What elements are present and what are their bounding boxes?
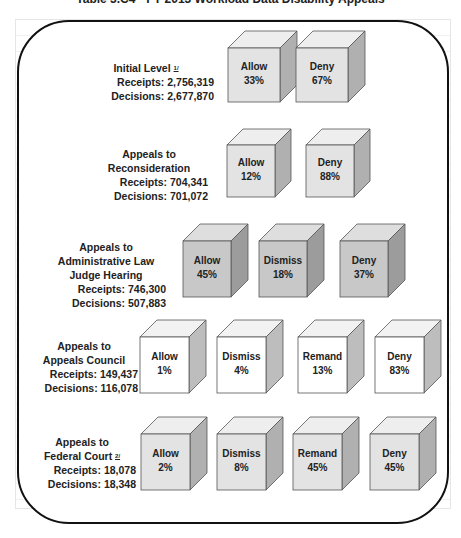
outcome-percent: 8% [217, 461, 266, 475]
receipts-label: Receipts: [117, 76, 164, 88]
outcome-label: Deny [306, 156, 354, 170]
outcome-cube: Dismiss4% [217, 320, 283, 393]
decisions-value: 2,677,870 [167, 90, 214, 102]
receipts-value: 18,078 [104, 464, 136, 476]
receipts-value: 704,341 [170, 176, 208, 188]
level-name-line2: Reconsideration [90, 161, 208, 175]
outcome-percent: 88% [306, 170, 354, 184]
receipts-label: Receipts: [54, 464, 101, 476]
outcome-cube: Dismiss18% [259, 224, 324, 297]
receipts-label: Receipts: [120, 176, 167, 188]
outcome-label: Allow [227, 156, 275, 170]
level-label-federal-court: Appeals to Federal Court 2/ Receipts: 18… [28, 435, 136, 491]
level-name: Appeals to [46, 240, 166, 254]
level-label-initial: Initial Level 1/ Receipts: 2,756,319 Dec… [78, 61, 214, 103]
outcome-label: Allow [141, 447, 190, 461]
outcome-label: Dismiss [259, 254, 307, 268]
outcome-label: Allow [228, 60, 280, 74]
outcome-cube: Deny83% [375, 320, 441, 393]
receipts-value: 746,300 [128, 283, 166, 295]
outcome-percent: 13% [298, 364, 347, 378]
receipts-label: Receipts: [78, 283, 125, 295]
outcome-label: Allow [140, 350, 189, 364]
outcome-percent: 4% [217, 364, 266, 378]
outcome-cube: Remand13% [298, 320, 364, 393]
outcome-percent: 37% [340, 268, 388, 282]
decisions-label: Decisions: [72, 297, 125, 309]
outcome-percent: 18% [259, 268, 307, 282]
outcome-percent: 45% [183, 268, 231, 282]
outcome-label: Deny [340, 254, 388, 268]
decisions-label: Decisions: [45, 382, 98, 394]
decisions-value: 116,078 [101, 382, 138, 394]
outcome-percent: 12% [227, 170, 275, 184]
outcome-percent: 33% [228, 74, 280, 88]
outcome-cube: Deny37% [340, 224, 405, 297]
decisions-value: 701,072 [170, 190, 208, 202]
outcome-label: Deny [370, 447, 419, 461]
receipts-value: 149,437 [100, 368, 138, 380]
outcome-percent: 45% [293, 461, 342, 475]
decisions-label: Decisions: [111, 90, 164, 102]
outcome-percent: 67% [296, 74, 348, 88]
level-name: Initial Level [113, 62, 170, 74]
level-name-line3: Judge Hearing [46, 268, 166, 282]
outcome-percent: 83% [375, 364, 424, 378]
level-label-reconsideration: Appeals to Reconsideration Receipts: 704… [90, 147, 208, 203]
table-title: Table 3.C4 - FY 2013 Workload Data Disab… [0, 0, 461, 6]
footnote-marker: 2/ [115, 453, 120, 459]
level-name: Appeals to [28, 435, 136, 449]
level-label-appeals-council: Appeals to Appeals Council Receipts: 149… [30, 339, 138, 395]
outcome-cube: Allow45% [183, 224, 248, 297]
decisions-label: Decisions: [114, 190, 167, 202]
level-name-line2: Federal Court [44, 450, 112, 462]
outcome-cube: Deny88% [306, 129, 370, 197]
outcome-cube: Dismiss8% [217, 417, 283, 490]
outcome-cube: Remand45% [293, 417, 359, 490]
decisions-value: 507,883 [128, 297, 166, 309]
level-label-alj: Appeals to Administrative Law Judge Hear… [46, 240, 166, 310]
outcome-cube: Deny45% [370, 417, 436, 490]
outcome-label: Remand [298, 350, 347, 364]
receipts-label: Receipts: [50, 368, 97, 380]
footnote-marker: 1/ [174, 65, 179, 71]
outcome-label: Deny [375, 350, 424, 364]
outcome-cube: Allow12% [227, 129, 291, 197]
outcome-percent: 2% [141, 461, 190, 475]
level-name: Appeals to [30, 339, 138, 353]
outcome-percent: 45% [370, 461, 419, 475]
outcome-percent: 1% [140, 364, 189, 378]
outcome-cube: Allow33% [228, 31, 297, 102]
outcome-label: Remand [293, 447, 342, 461]
outcome-label: Dismiss [217, 350, 266, 364]
receipts-value: 2,756,319 [167, 76, 214, 88]
level-name-line2: Appeals Council [30, 353, 138, 367]
outcome-cube: Allow2% [141, 417, 207, 490]
level-name: Appeals to [90, 147, 208, 161]
level-name-line2: Administrative Law [46, 254, 166, 268]
decisions-value: 18,348 [104, 478, 136, 490]
decisions-label: Decisions: [48, 478, 101, 490]
outcome-cube: Allow1% [140, 320, 206, 393]
outcome-label: Deny [296, 60, 348, 74]
outcome-cube: Deny67% [296, 31, 365, 102]
outcome-label: Allow [183, 254, 231, 268]
outcome-label: Dismiss [217, 447, 266, 461]
